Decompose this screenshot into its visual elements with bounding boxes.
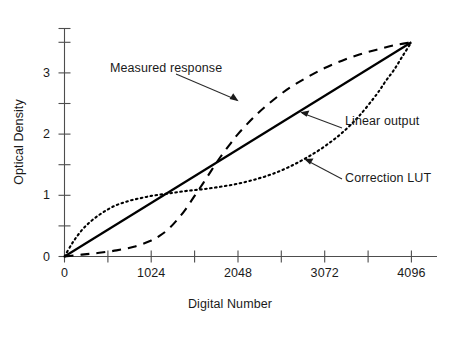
annotation-leader-measured bbox=[176, 74, 239, 101]
x-tick-label-4096: 4096 bbox=[397, 266, 425, 280]
annotation-linear-output: Linear output bbox=[345, 114, 419, 128]
y-tick-label-3: 3 bbox=[32, 66, 50, 80]
annotation-leader-lut bbox=[304, 158, 342, 179]
y-tick-label-0: 0 bbox=[32, 250, 50, 264]
x-axis-title: Digital Number bbox=[188, 297, 272, 311]
chart-plot-area bbox=[0, 0, 461, 337]
optical-density-chart: 0 1024 2048 3072 4096 0 1 2 3 Digital Nu… bbox=[0, 0, 461, 337]
annotation-correction-lut: Correction LUT bbox=[345, 171, 431, 185]
y-axis-title: Optical Density bbox=[12, 99, 26, 185]
x-tick-label-3072: 3072 bbox=[311, 266, 339, 280]
x-tick-label-2048: 2048 bbox=[224, 266, 252, 280]
y-tick-label-2: 2 bbox=[32, 127, 50, 141]
annotation-measured-response: Measured response bbox=[110, 61, 222, 75]
y-tick-label-1: 1 bbox=[32, 188, 50, 202]
x-tick-label-0: 0 bbox=[61, 266, 68, 280]
x-tick-label-1024: 1024 bbox=[137, 266, 165, 280]
annotation-leader-linear bbox=[300, 111, 342, 128]
